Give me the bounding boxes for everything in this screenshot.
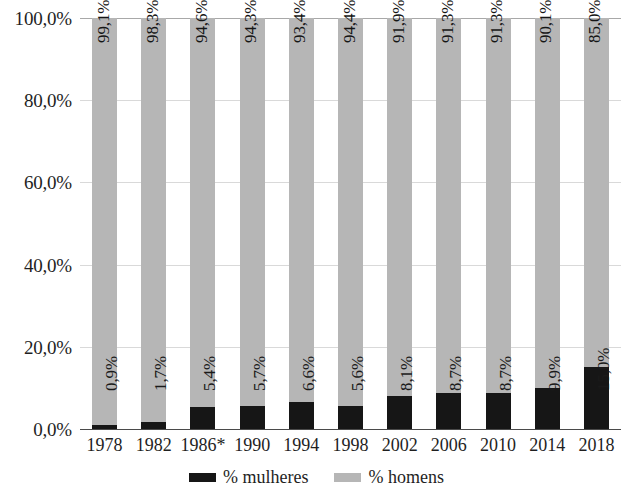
bar-segment-mulheres[interactable] bbox=[190, 407, 215, 429]
bar-value-label-homens: 91,3% bbox=[439, 0, 456, 43]
legend-item[interactable]: % mulheres bbox=[189, 467, 308, 487]
bar-segment-mulheres[interactable] bbox=[240, 406, 265, 429]
y-tick-label: 80,0% bbox=[24, 91, 72, 110]
x-axis-line bbox=[80, 429, 621, 431]
y-tick-label: 100,0% bbox=[15, 9, 72, 28]
bar-segment-mulheres[interactable] bbox=[289, 402, 314, 429]
bar-value-label-homens: 91,3% bbox=[488, 0, 505, 43]
x-tick-label: 2014 bbox=[529, 434, 565, 456]
bar-value-label-homens: 90,1% bbox=[537, 0, 554, 43]
stacked-bar-chart: 0,0%20,0%40,0%60,0%80,0%100,0% 99,1%0,9%… bbox=[0, 0, 633, 493]
legend-item[interactable]: % homens bbox=[334, 467, 444, 487]
y-tick-label: 0,0% bbox=[33, 420, 72, 439]
y-tick-label: 60,0% bbox=[24, 173, 72, 192]
x-tick-label: 1986* bbox=[180, 434, 225, 456]
bar-value-label-mulheres: 8,7% bbox=[447, 356, 464, 391]
legend-label: % mulheres bbox=[223, 467, 308, 487]
bar-segment-homens[interactable] bbox=[584, 18, 609, 367]
bar-value-label-mulheres: 8,1% bbox=[398, 356, 415, 391]
x-tick-label: 2018 bbox=[578, 434, 614, 456]
bar-segment-mulheres[interactable] bbox=[387, 396, 412, 429]
x-tick-label: 1998 bbox=[333, 434, 369, 456]
bar-segment-mulheres[interactable] bbox=[436, 393, 461, 429]
y-tick-label: 20,0% bbox=[24, 337, 72, 356]
bar-value-label-mulheres: 5,7% bbox=[251, 356, 268, 391]
bars-layer: 99,1%0,9%98,3%1,7%94,6%5,4%94,3%5,7%93,4… bbox=[80, 18, 621, 429]
bar-value-label-homens: 94,3% bbox=[242, 0, 259, 43]
x-tick-label: 2002 bbox=[382, 434, 418, 456]
bar-segment-mulheres[interactable] bbox=[486, 393, 511, 429]
legend-swatch-icon bbox=[334, 473, 361, 482]
bar-segment-mulheres[interactable] bbox=[535, 388, 560, 429]
bar-segment-homens[interactable] bbox=[535, 18, 560, 388]
bar-segment-homens[interactable] bbox=[486, 18, 511, 393]
plot-area: 99,1%0,9%98,3%1,7%94,6%5,4%94,3%5,7%93,4… bbox=[80, 18, 621, 429]
bar-segment-homens[interactable] bbox=[338, 18, 363, 406]
x-axis: 197819821986*199019941998200220062010201… bbox=[80, 434, 621, 462]
bar-segment-homens[interactable] bbox=[436, 18, 461, 393]
bar-value-label-homens: 99,1% bbox=[95, 0, 112, 43]
bar-value-label-mulheres: 15,0% bbox=[595, 348, 612, 391]
legend-swatch-icon bbox=[189, 473, 216, 482]
bar-value-label-mulheres: 5,6% bbox=[349, 356, 366, 391]
legend-label: % homens bbox=[368, 467, 444, 487]
bar-value-label-mulheres: 5,4% bbox=[201, 356, 218, 391]
bar-value-label-homens: 93,4% bbox=[291, 0, 308, 43]
bar-segment-homens[interactable] bbox=[289, 18, 314, 402]
x-tick-label: 1982 bbox=[136, 434, 172, 456]
bar-segment-homens[interactable] bbox=[190, 18, 215, 407]
bar-value-label-mulheres: 6,6% bbox=[300, 356, 317, 391]
bar-value-label-mulheres: 0,9% bbox=[103, 356, 120, 391]
bar-value-label-mulheres: 8,7% bbox=[497, 356, 514, 391]
bar-segment-mulheres[interactable] bbox=[338, 406, 363, 429]
y-axis: 0,0%20,0%40,0%60,0%80,0%100,0% bbox=[0, 0, 78, 440]
bar-value-label-homens: 91,9% bbox=[390, 0, 407, 43]
x-tick-label: 2010 bbox=[480, 434, 516, 456]
bar-segment-homens[interactable] bbox=[240, 18, 265, 406]
bar-value-label-mulheres: 9,9% bbox=[546, 356, 563, 391]
bar-value-label-homens: 98,3% bbox=[144, 0, 161, 43]
bar-value-label-mulheres: 1,7% bbox=[152, 356, 169, 391]
x-tick-label: 1990 bbox=[234, 434, 270, 456]
bar-value-label-homens: 94,4% bbox=[341, 0, 358, 43]
y-tick-label: 40,0% bbox=[24, 255, 72, 274]
x-tick-label: 1978 bbox=[87, 434, 123, 456]
chart-legend: % mulheres% homens bbox=[0, 464, 633, 490]
x-tick-label: 1994 bbox=[283, 434, 319, 456]
x-tick-label: 2006 bbox=[431, 434, 467, 456]
bar-segment-homens[interactable] bbox=[387, 18, 412, 396]
bar-value-label-homens: 94,6% bbox=[193, 0, 210, 43]
bar-value-label-homens: 85,0% bbox=[586, 0, 603, 43]
